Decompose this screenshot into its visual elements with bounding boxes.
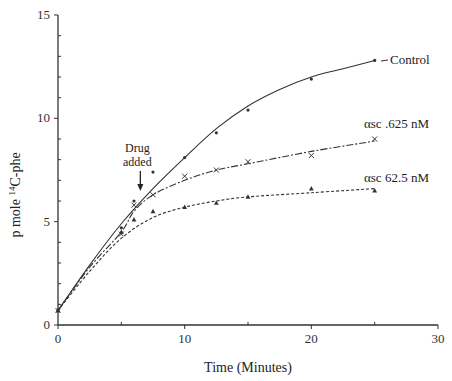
triangle-marker bbox=[132, 217, 137, 221]
dot-marker bbox=[132, 199, 135, 202]
x-tick-label: 30 bbox=[432, 331, 445, 346]
y-tick-label: 10 bbox=[37, 110, 50, 125]
series-1 bbox=[56, 137, 378, 314]
series-labels: Controlαsc .625 nMαsc 62.5 nM bbox=[364, 52, 430, 185]
dot-marker bbox=[373, 59, 376, 62]
x-marker bbox=[309, 153, 314, 158]
x-tick-label: 10 bbox=[178, 331, 191, 346]
series-group bbox=[56, 59, 378, 313]
series-0 bbox=[56, 59, 376, 312]
annotation-line2: added bbox=[123, 155, 152, 169]
dot-marker bbox=[310, 77, 313, 80]
dot-marker bbox=[151, 170, 154, 173]
chart: 0102030051015 Controlαsc .625 nMαsc 62.5… bbox=[0, 0, 452, 381]
y-tick-label: 5 bbox=[44, 214, 51, 229]
y-tick-label: 0 bbox=[44, 317, 51, 332]
x-tick-label: 20 bbox=[305, 331, 318, 346]
x-marker bbox=[372, 137, 377, 142]
x-axis-title: Time (Minutes) bbox=[204, 360, 292, 376]
series-line bbox=[58, 60, 375, 310]
x-marker bbox=[132, 203, 137, 208]
dot-marker bbox=[215, 131, 218, 134]
series-label-1: αsc .625 nM bbox=[364, 116, 429, 131]
y-axis-title: p mole 14C-phe bbox=[7, 152, 23, 237]
triangle-marker bbox=[151, 209, 156, 213]
series-line bbox=[58, 141, 375, 310]
drug-added-annotation: Drugadded bbox=[123, 141, 152, 191]
x-marker bbox=[151, 192, 156, 197]
x-marker bbox=[182, 174, 187, 179]
series-line bbox=[58, 189, 375, 311]
series-2 bbox=[56, 186, 377, 312]
x-tick-label: 0 bbox=[55, 331, 62, 346]
dot-marker bbox=[183, 156, 186, 159]
triangle-marker bbox=[182, 205, 187, 209]
annotation-line1: Drug bbox=[125, 141, 150, 155]
dot-marker bbox=[120, 226, 123, 229]
series-label-2: αsc 62.5 nM bbox=[364, 170, 429, 185]
control-leader-line bbox=[381, 60, 388, 61]
y-tick-label: 15 bbox=[37, 7, 50, 22]
series-label-0: Control bbox=[390, 52, 430, 67]
triangle-marker bbox=[309, 186, 314, 190]
dot-marker bbox=[246, 108, 249, 111]
arrow-head-icon bbox=[137, 184, 143, 191]
triangle-marker bbox=[119, 229, 124, 233]
